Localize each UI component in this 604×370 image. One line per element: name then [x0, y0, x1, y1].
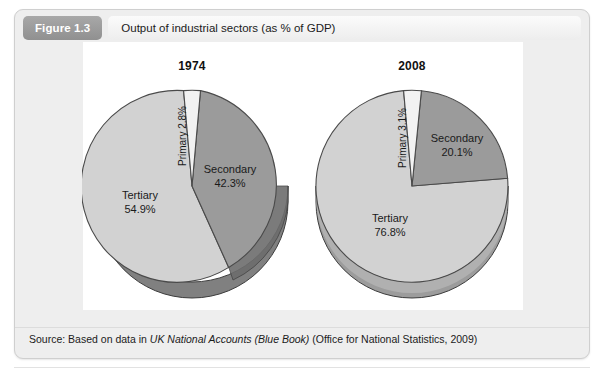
pie-svg-2008: Primary 3.1% Secondary 20.1% Tertiary 76…: [302, 76, 522, 306]
figure-caption-bar: Figure 1.3 Output of industrial sectors …: [23, 16, 581, 40]
slice-label-secondary-name-1974: Secondary: [204, 163, 257, 175]
chart-title-2008: 2008: [302, 59, 522, 73]
slice-label-secondary-value-1974: 42.3%: [214, 177, 245, 189]
footer-divider: [15, 327, 589, 328]
chart-plot-panel: 1974: [83, 42, 523, 310]
pie-svg-1974: Primary 2.8% Secondary 42.3% Tertiary 54…: [82, 76, 302, 306]
page-bottom-rule: [14, 367, 590, 368]
figure-card: Figure 1.3 Output of industrial sectors …: [14, 9, 590, 359]
slice-label-tertiary-value-1974: 54.9%: [124, 203, 155, 215]
pie-chart-1974: 1974: [82, 42, 302, 310]
chart-title-1974: 1974: [82, 59, 302, 73]
slice-label-tertiary-value-2008: 76.8%: [374, 226, 405, 238]
figure-number-badge: Figure 1.3: [23, 16, 102, 40]
source-suffix: (Office for National Statistics, 2009): [309, 333, 477, 345]
slice-label-primary-2008: Primary 3.1%: [397, 108, 408, 168]
source-attribution: Source: Based on data in UK National Acc…: [29, 332, 575, 346]
figure-caption-text: Output of industrial sectors (as % of GD…: [108, 16, 581, 40]
slice-label-secondary-name-2008: Secondary: [431, 132, 484, 144]
slice-label-primary-1974: Primary 2.8%: [177, 106, 188, 166]
source-prefix: Source: Based on data in: [29, 333, 150, 345]
source-publication-title: UK National Accounts (Blue Book): [150, 333, 310, 345]
pie-chart-2008: 2008: [302, 42, 522, 310]
slice-label-tertiary-name-2008: Tertiary: [372, 212, 409, 224]
slice-label-tertiary-name-1974: Tertiary: [122, 189, 159, 201]
slice-label-secondary-value-2008: 20.1%: [441, 146, 472, 158]
